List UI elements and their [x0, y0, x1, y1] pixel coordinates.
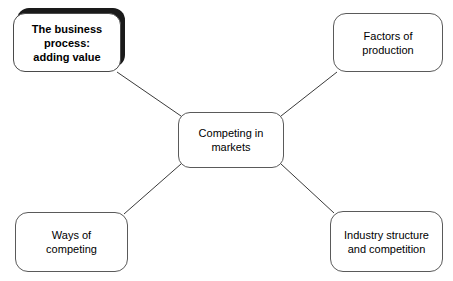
node-factors-of-production[interactable]: Factors of production	[333, 13, 443, 72]
connector-center-to-factors-of-production	[281, 72, 337, 116]
node-ways-of-competing[interactable]: Ways of competing	[15, 212, 128, 272]
node-industry-structure[interactable]: Industry structure and competition	[330, 211, 443, 272]
node-business-process[interactable]: The business process: adding value	[13, 13, 121, 72]
node-factors-of-production-label: Factors of production	[356, 29, 419, 57]
connector-center-to-industry-structure	[281, 164, 334, 213]
node-industry-structure-label: Industry structure and competition	[338, 228, 435, 256]
connector-center-to-business-process	[117, 72, 181, 116]
node-competing-in-markets-label: Competing in markets	[193, 126, 270, 154]
node-business-process-label: The business process: adding value	[26, 22, 108, 64]
diagram-canvas: The business process: adding value Facto…	[0, 0, 453, 281]
connector-center-to-ways-of-competing	[124, 164, 181, 214]
node-competing-in-markets[interactable]: Competing in markets	[178, 112, 284, 168]
node-ways-of-competing-label: Ways of competing	[40, 228, 103, 256]
